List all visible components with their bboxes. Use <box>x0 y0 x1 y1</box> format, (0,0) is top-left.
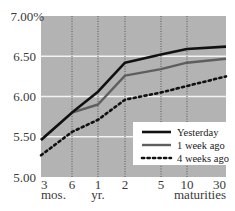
y-tick-label: 7.00% <box>10 9 44 24</box>
y-axis-labels: 7.00%6.506.005.505.00 <box>10 9 44 185</box>
y-tick-label: 5.50 <box>13 129 36 144</box>
y-tick-label: 6.50 <box>13 49 36 64</box>
x-unit-label: mos. <box>41 187 66 202</box>
legend-label: Yesterday <box>177 127 219 138</box>
y-tick-label: 6.00 <box>13 89 36 104</box>
x-tick-label: 5 <box>158 177 165 192</box>
x-tick-label: 6 <box>69 177 76 192</box>
x-tick-label: 2 <box>122 177 129 192</box>
x-unit-label: yr. <box>91 187 104 202</box>
legend-label: 1 week ago <box>177 140 225 151</box>
x-axis-title: maturities <box>174 187 226 202</box>
y-tick-label: 5.00 <box>13 170 36 185</box>
legend: Yesterday1 week ago4 weeks ago <box>133 122 229 165</box>
legend-label: 4 weeks ago <box>177 153 229 164</box>
yield-curve-chart: 7.00%6.506.005.505.00 361251030mos.yr. m… <box>0 0 235 211</box>
